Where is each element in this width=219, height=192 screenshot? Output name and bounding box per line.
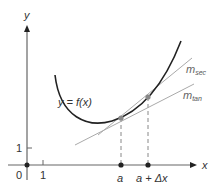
point-a-on-curve [118,115,123,120]
x-axis-label: x [201,159,208,171]
curve-label: y = f(x) [57,96,92,108]
point-a-dx-on-curve [145,94,150,99]
axes [8,25,197,180]
point-a-dx-on-axis [145,162,150,167]
y-tick-label: 1 [16,142,22,154]
origin-label: 0 [16,169,22,181]
a-label: a [117,172,123,184]
x-axis-arrow-icon [190,162,197,168]
tangent-line [75,84,194,145]
y-axis-arrow-icon [24,25,30,32]
point-a-on-axis [118,162,123,167]
origin-dot [25,163,30,168]
secant-slope-label: msec [186,63,207,76]
y-axis-label: y [23,9,31,21]
calculus-diagram: y x 0 1 1 a a + Δx y = f(x) msec mtan [0,0,219,192]
tangent-slope-label: mtan [183,89,202,102]
a-dx-label: a + Δx [136,172,168,184]
x-tick-label: 1 [40,169,46,181]
secant-line [98,58,192,135]
